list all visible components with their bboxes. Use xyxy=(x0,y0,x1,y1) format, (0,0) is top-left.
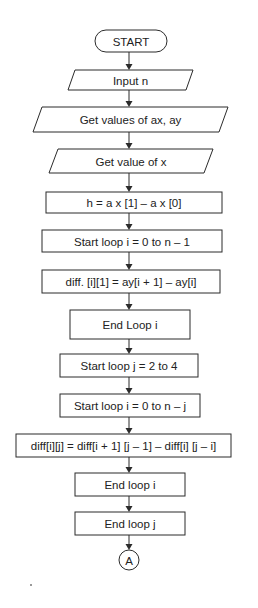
scan-speck xyxy=(30,584,32,586)
arrowhead-down-icon xyxy=(126,544,133,550)
arrowhead-down-icon xyxy=(126,388,133,394)
arrow-loop-i-end-2-to-loop-j-end xyxy=(126,496,133,512)
node-label: Start loop i = 0 to n – 1 xyxy=(74,236,190,248)
arrow-loop-i-end-1-to-loop-j-start xyxy=(126,339,133,354)
arrowhead-down-icon xyxy=(126,428,133,434)
node-calc-h: h = a x [1] – a x [0] xyxy=(46,192,222,213)
arrow-calc-diff-1-to-loop-i-end-1 xyxy=(126,293,133,310)
arrow-calc-h-to-loop-i-start-1 xyxy=(126,213,133,230)
arrowhead-down-icon xyxy=(126,467,133,473)
node-loop-i-start-1: Start loop i = 0 to n – 1 xyxy=(42,230,222,252)
node-label: START xyxy=(113,36,150,48)
arrow-loop-j-end-to-connector-a xyxy=(126,535,133,550)
arrowhead-down-icon xyxy=(126,506,133,512)
arrowhead-down-icon xyxy=(126,64,133,70)
arrowhead-down-icon xyxy=(126,304,133,310)
node-label: Input n xyxy=(113,75,148,87)
node-label: Start loop i = 0 to n – j xyxy=(74,400,186,412)
node-loop-i-end-2: End loop i xyxy=(75,473,185,496)
flowchart-nodes: STARTInput nGet values of ax, ayGet valu… xyxy=(16,30,231,570)
arrowhead-down-icon xyxy=(126,186,133,192)
node-start: START xyxy=(95,30,167,52)
arrowhead-down-icon xyxy=(126,143,133,149)
node-label: h = a x [1] – a x [0] xyxy=(87,197,182,209)
arrow-start-to-input-n xyxy=(126,52,133,70)
node-label: diff. [i][1] = ay[i + 1] – ay[i] xyxy=(66,276,197,288)
node-label: Get values of ax, ay xyxy=(80,114,182,126)
node-input-n: Input n xyxy=(68,70,193,90)
node-label: Get value of x xyxy=(96,156,167,168)
flowchart-canvas: STARTInput nGet values of ax, ayGet valu… xyxy=(0,0,258,608)
node-loop-i-start-2: Start loop i = 0 to n – j xyxy=(60,394,200,417)
node-label: End loop j xyxy=(104,518,155,530)
node-get-x: Get value of x xyxy=(49,149,213,173)
arrow-loop-j-start-to-loop-i-start-2 xyxy=(126,377,133,394)
node-connector-a: A xyxy=(119,550,139,570)
node-calc-diff-ij: diff[i][j] = diff[i + 1] [j – 1] – diff[… xyxy=(16,434,231,457)
node-loop-j-start: Start loop j = 2 to 4 xyxy=(60,354,198,377)
arrowhead-down-icon xyxy=(126,224,133,230)
node-label: End loop i xyxy=(104,479,155,491)
node-label: diff[i][j] = diff[i + 1] [j – 1] – diff[… xyxy=(31,440,216,452)
node-get-ax-ay: Get values of ax, ay xyxy=(33,107,228,132)
node-loop-j-end: End loop j xyxy=(75,512,185,535)
arrow-loop-i-start-2-to-calc-diff-ij xyxy=(126,417,133,434)
arrow-get-x-to-calc-h xyxy=(126,173,133,192)
node-label: End Loop i xyxy=(103,319,158,331)
node-calc-diff-1: diff. [i][1] = ay[i + 1] – ay[i] xyxy=(42,270,220,293)
node-label: A xyxy=(125,555,133,567)
arrow-calc-diff-ij-to-loop-i-end-2 xyxy=(126,457,133,473)
arrowhead-down-icon xyxy=(126,348,133,354)
arrow-get-ax-ay-to-get-x xyxy=(126,132,133,149)
arrowhead-down-icon xyxy=(126,264,133,270)
arrowhead-down-icon xyxy=(126,101,133,107)
arrow-loop-i-start-1-to-calc-diff-1 xyxy=(126,252,133,270)
node-label: Start loop j = 2 to 4 xyxy=(81,360,178,372)
arrow-input-n-to-get-ax-ay xyxy=(126,90,133,107)
node-loop-i-end-1: End Loop i xyxy=(70,310,190,339)
